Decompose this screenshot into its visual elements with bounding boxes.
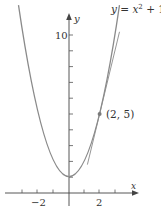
y-ticks: [69, 35, 73, 177]
x-axis-label: x: [131, 181, 136, 191]
tangent-line: [87, 32, 119, 165]
y-tick-label-10: 10: [55, 30, 68, 41]
y-axis-label: y: [73, 13, 80, 24]
point-label: (2, 5): [106, 108, 134, 120]
x-tick-label-neg2: −2: [31, 197, 46, 208]
chart-plot: y = x2 + 1 (2, 5) y x 10 −2 2: [0, 0, 161, 215]
curve-equation-label: y = x2 + 1: [110, 3, 161, 15]
x-axis-arrow-icon: [132, 190, 139, 196]
x-tick-label-2: 2: [96, 197, 102, 208]
y-axis-arrow-icon: [66, 13, 72, 20]
tangent-point: [98, 112, 102, 116]
x-ticks: [22, 190, 115, 194]
